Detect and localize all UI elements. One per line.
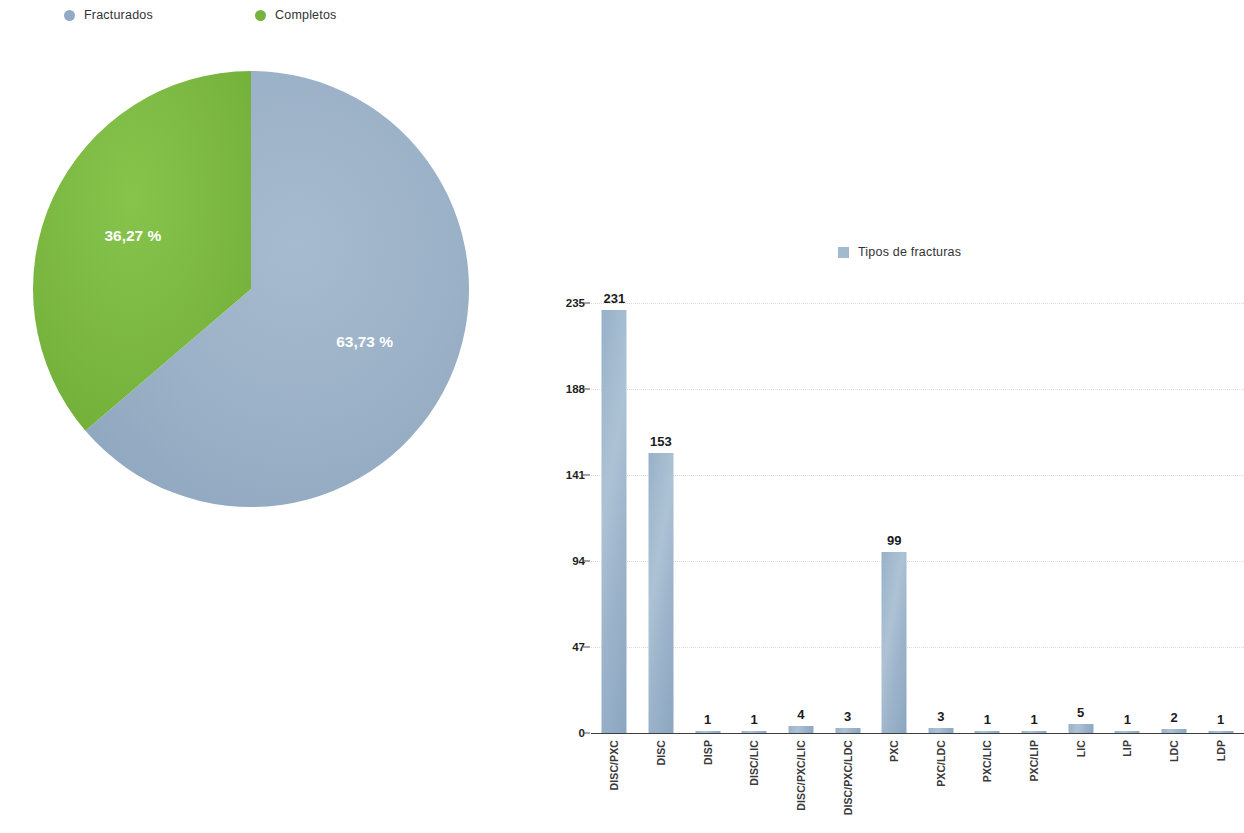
legend-color-swatch-icon (838, 247, 849, 258)
x-axis-label-slot: LIC (1057, 278, 1104, 833)
y-axis-tick-mark (583, 475, 590, 476)
x-axis-label-slot: LDP (1197, 278, 1244, 833)
bar-chart-panel: Tipos de fracturas 04794141188235 231153… (555, 232, 1244, 833)
x-axis-label-slot: DISC/PXC/LIC (778, 278, 825, 833)
y-axis-tick-label: 141 (545, 469, 585, 481)
y-axis-tick-mark (583, 389, 590, 390)
y-axis-tick-label: 94 (545, 555, 585, 567)
y-axis-tick-label: 0 (545, 727, 585, 739)
x-axis-tick-label: LDC (1168, 740, 1180, 762)
x-axis-tick-label: PXC/LIP (1028, 740, 1040, 782)
x-axis-label-slot: PXC/LIC (964, 278, 1011, 833)
y-axis-tick-label: 235 (545, 297, 585, 309)
pie-svg: 36,27 % 63,73 % (16, 57, 486, 522)
y-axis-tick-label: 47 (545, 641, 585, 653)
x-axis-label-slot: PXC/LIP (1011, 278, 1058, 833)
x-axis-label-slot: DISC/PXC (591, 278, 638, 833)
x-axis-label-slot: DISC/PXC/LDC (824, 278, 871, 833)
x-axis-tick-label: PXC/LDC (935, 740, 947, 787)
x-axis-label-slot: PXC/LDC (918, 278, 965, 833)
pie-slice-label-completos: 36,27 % (104, 227, 161, 244)
x-axis-tick-label: DISC/LIC (748, 740, 760, 786)
legend-item-label: Fracturados (84, 8, 153, 22)
x-axis-label-slot: LIP (1104, 278, 1151, 833)
legend-color-swatch-icon (64, 10, 75, 21)
x-axis-labels: DISC/PXCDISCDISPDISC/LICDISC/PXC/LICDISC… (591, 278, 1244, 833)
x-axis-label-slot: DISP (684, 278, 731, 833)
pie-slice-label-fracturados: 63,73 % (336, 333, 393, 350)
x-axis-tick-label: LIC (1075, 740, 1087, 757)
pie-chart-legend: Fracturados Completos (0, 0, 500, 36)
legend-item-fracturados[interactable]: Fracturados (64, 8, 153, 22)
y-axis-tick-label: 188 (545, 383, 585, 395)
legend-item-completos[interactable]: Completos (255, 8, 337, 22)
x-axis-tick-label: PXC (888, 740, 900, 762)
x-axis-tick-label: DISC/PXC/LIC (795, 740, 807, 811)
x-axis-label-slot: DISC/LIC (731, 278, 778, 833)
legend-color-swatch-icon (255, 10, 266, 21)
y-axis-tick-mark (583, 561, 590, 562)
y-axis-tick-mark (583, 647, 590, 648)
x-axis-tick-label: LDP (1215, 740, 1227, 761)
y-axis-tick-mark (583, 733, 590, 734)
x-axis-tick-label: PXC/LIC (981, 740, 993, 782)
x-axis-tick-label: LIP (1121, 740, 1133, 757)
x-axis-label-slot: LDC (1151, 278, 1198, 833)
pie-chart-graphic: 36,27 % 63,73 % (16, 57, 486, 522)
x-axis-tick-label: DISC/PXC/LDC (842, 740, 854, 815)
bar-chart-legend: Tipos de fracturas (555, 232, 1244, 272)
x-axis-tick-label: DISP (702, 740, 714, 765)
x-axis-tick-label: DISC (655, 740, 667, 766)
pie-chart-panel: Fracturados Completos (0, 0, 520, 545)
x-axis-tick-label: DISC/PXC (608, 740, 620, 790)
bar-chart-plot-area: 04794141188235 2311531143993115121 DISC/… (555, 278, 1244, 833)
legend-item-tipos-de-fracturas[interactable]: Tipos de fracturas (838, 245, 961, 259)
legend-item-label: Completos (275, 8, 337, 22)
x-axis-label-slot: PXC (871, 278, 918, 833)
y-axis-tick-mark (583, 303, 590, 304)
x-axis-label-slot: DISC (638, 278, 685, 833)
legend-item-label: Tipos de fracturas (858, 245, 961, 259)
